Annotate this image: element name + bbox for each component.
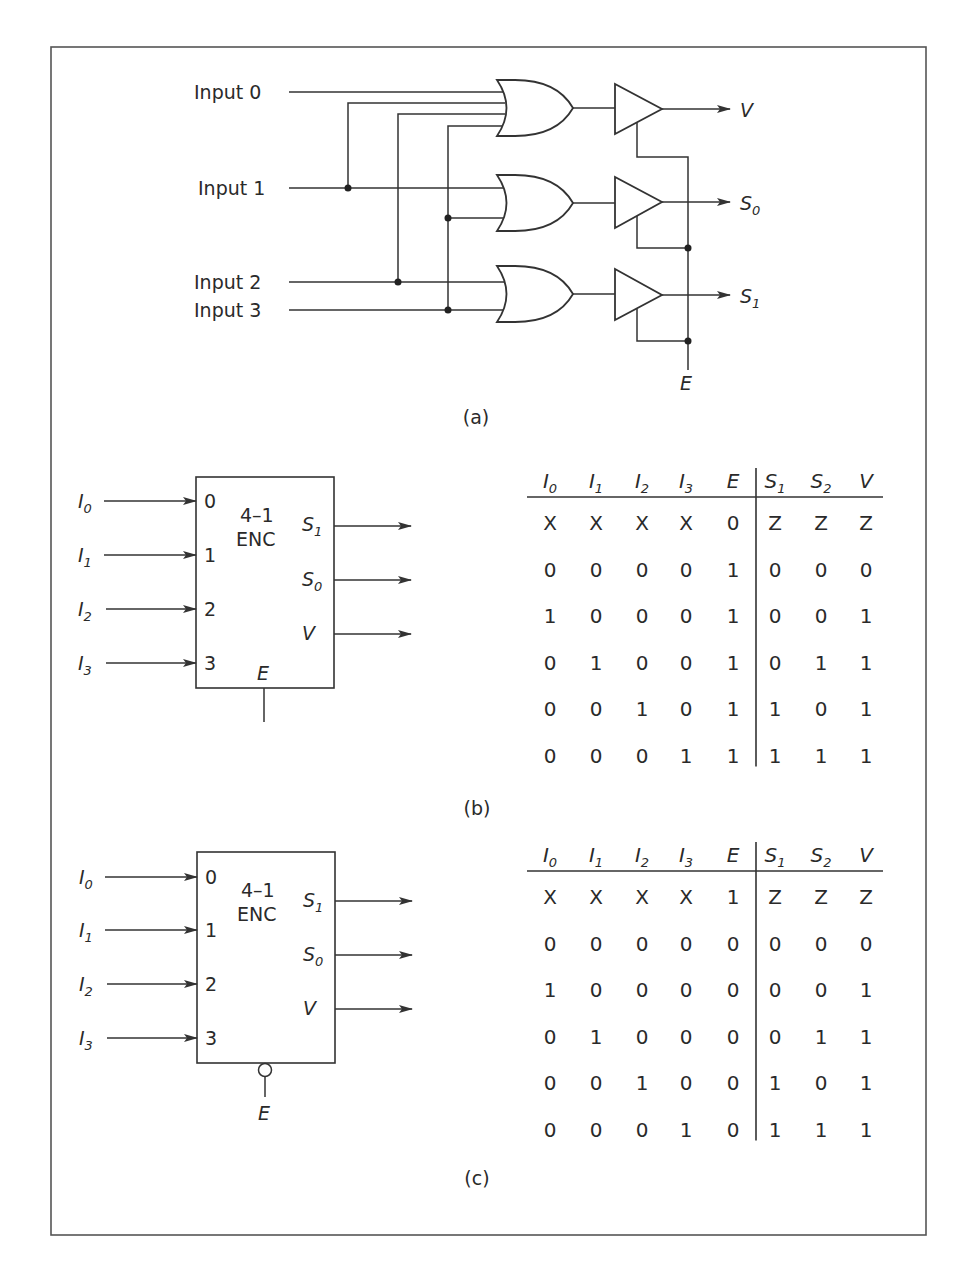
figure-frame: [51, 47, 926, 1235]
output-s0-label: S0: [740, 192, 760, 218]
table-cell: 0: [769, 558, 782, 582]
table-cell: 1: [544, 604, 557, 628]
tspan: 0: [549, 855, 557, 870]
table-cell: 0: [815, 1071, 828, 1095]
table-header-cell: I3: [679, 469, 693, 496]
tspan: S: [303, 943, 315, 965]
table-cell: 0: [860, 932, 873, 956]
table-cell: 1: [636, 1071, 649, 1095]
table-cell: 0: [544, 932, 557, 956]
tspan: 1: [777, 855, 785, 870]
table-cell: Z: [859, 885, 873, 909]
input-3-label: Input 3: [194, 299, 261, 321]
table-cell: 0: [544, 1025, 557, 1049]
tspan: 1: [315, 900, 323, 915]
tspan: S: [765, 469, 778, 493]
tspan: 1: [777, 481, 785, 496]
table-cell: 0: [544, 744, 557, 768]
tspan: 1: [84, 555, 92, 570]
table-cell: Z: [814, 885, 828, 909]
or-gate-s0: [497, 175, 573, 231]
tspan: 2: [823, 481, 831, 496]
encoder-title-line2: ENC: [237, 903, 276, 925]
tap-input1-to-v: [348, 103, 505, 188]
pin-3: 3: [205, 1027, 217, 1049]
input-label-i3: I3: [78, 652, 92, 678]
active-low-bubble-icon: [259, 1064, 272, 1077]
table-header-cell: I2: [635, 469, 649, 496]
table-header-cell: E: [727, 843, 740, 867]
table-cell: 0: [769, 651, 782, 675]
tspan: 1: [595, 481, 603, 496]
table-cell: 0: [815, 697, 828, 721]
table-cell: 1: [727, 744, 740, 768]
pin-2: 2: [205, 973, 217, 995]
tspan: 0: [314, 579, 322, 594]
table-cell: 0: [590, 1118, 603, 1142]
table-cell: X: [635, 885, 649, 909]
junction-dot: [445, 215, 452, 222]
output-v-label: V: [740, 99, 755, 121]
table-cell: 0: [590, 697, 603, 721]
table-header-cell: I1: [589, 843, 603, 870]
pin-0: 0: [205, 866, 217, 888]
tspan: 0: [84, 501, 92, 516]
panel-b-truth-table: I0I1I2I3ES1S2VXXXX0ZZZ000010001000100101…: [527, 468, 883, 768]
input-1-label: Input 1: [198, 177, 265, 199]
figure-canvas: Input 0 Input 1 Input 2 Input 3: [0, 0, 953, 1275]
enable-label: E: [257, 662, 269, 684]
table-cell: 1: [769, 744, 782, 768]
tspan: 2: [641, 855, 649, 870]
table-header-cell: I2: [635, 843, 649, 870]
table-header-cell: I0: [543, 843, 557, 870]
tspan: 0: [315, 954, 323, 969]
input-label-i2: I2: [78, 598, 92, 624]
table-cell: X: [589, 511, 603, 535]
table-cell: 1: [860, 1025, 873, 1049]
table-header-cell: S1: [765, 469, 786, 496]
panel-c-encoder-block: I0 I1 I2 I3 0 1 2 3 4–1 ENC S1 S0 V E: [79, 852, 412, 1124]
table-cell: X: [543, 511, 557, 535]
table-cell: X: [679, 511, 693, 535]
table-cell: 0: [769, 1025, 782, 1049]
table-cell: 1: [590, 651, 603, 675]
table-cell: 1: [860, 604, 873, 628]
tspan: E: [727, 843, 740, 867]
table-header-cell: I0: [543, 469, 557, 496]
tspan: V: [859, 469, 874, 493]
tspan: E: [727, 469, 740, 493]
table-cell: 0: [590, 1071, 603, 1095]
table-cell: 0: [815, 932, 828, 956]
table-cell: 1: [769, 1118, 782, 1142]
table-cell: 1: [680, 744, 693, 768]
junction-dot: [395, 279, 402, 286]
table-cell: 1: [860, 744, 873, 768]
table-cell: 0: [544, 558, 557, 582]
table-cell: 0: [680, 651, 693, 675]
panel-b-encoder-block: I0 I1 I2 I3 0 1 2 3 4–1 ENC S1 S0 V E: [78, 477, 411, 722]
table-cell: 0: [544, 1071, 557, 1095]
output-s1-label: S1: [740, 285, 760, 311]
pin-1: 1: [204, 544, 216, 566]
tspan: 2: [641, 481, 649, 496]
table-cell: 0: [769, 604, 782, 628]
input-label-i2: I2: [79, 973, 93, 999]
input-label-i1: I1: [78, 544, 92, 570]
table-cell: 0: [680, 1025, 693, 1049]
tspan: 0: [85, 877, 93, 892]
junction-dot: [345, 185, 352, 192]
table-cell: 0: [815, 558, 828, 582]
table-header-cell: S1: [765, 843, 786, 870]
table-cell: 0: [636, 932, 649, 956]
tspan: 2: [823, 855, 831, 870]
table-cell: 1: [680, 1118, 693, 1142]
tspan: 1: [85, 930, 93, 945]
table-header-cell: E: [727, 469, 740, 493]
table-cell: 0: [590, 604, 603, 628]
enable-wire: [637, 123, 688, 370]
table-cell: 0: [680, 978, 693, 1002]
table-cell: 1: [860, 1118, 873, 1142]
output-label-v: V: [303, 997, 318, 1019]
table-cell: 1: [727, 558, 740, 582]
table-cell: 0: [680, 1071, 693, 1095]
